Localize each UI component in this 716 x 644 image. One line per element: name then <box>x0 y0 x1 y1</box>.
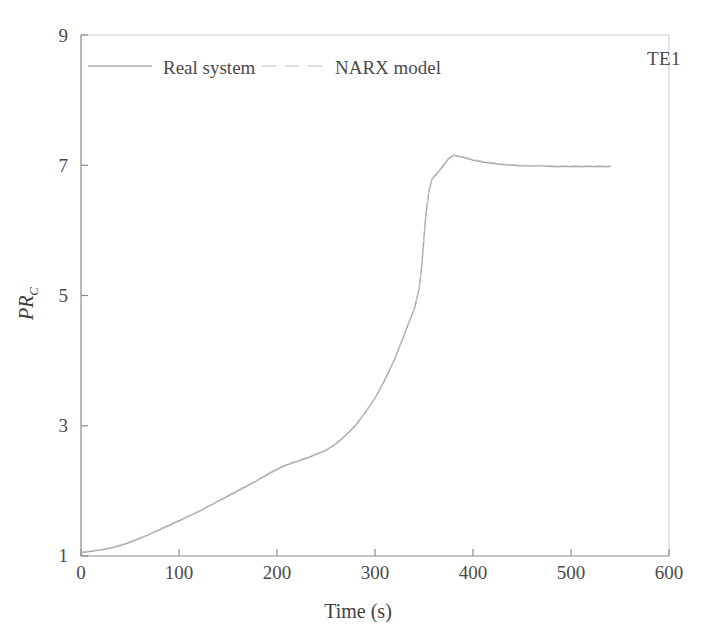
x-tick-label: 400 <box>453 562 493 584</box>
axis-ticks <box>81 35 669 556</box>
chart-figure: 1 3 5 7 9 0 100 200 300 400 500 600 Time… <box>0 0 716 644</box>
y-tick-label: 7 <box>40 155 68 177</box>
x-tick-label: 300 <box>355 562 395 584</box>
x-axis-label: Time (s) <box>0 600 716 623</box>
legend-label-narx-model: NARX model <box>335 57 441 79</box>
x-tick-label: 500 <box>551 562 591 584</box>
plot-canvas <box>0 0 716 644</box>
y-tick-label: 9 <box>40 25 68 47</box>
y-tick-label: 3 <box>40 415 68 437</box>
legend-label-real-system: Real system <box>163 57 255 79</box>
x-tick-label: 0 <box>61 562 101 584</box>
series-line-narx-model <box>81 155 610 552</box>
y-axis-label: PRC <box>15 264 42 344</box>
data-series-group <box>81 155 610 553</box>
y-axis-label-base: PR <box>15 296 37 320</box>
x-tick-label: 200 <box>257 562 297 584</box>
x-tick-label: 100 <box>159 562 199 584</box>
x-tick-label: 600 <box>649 562 689 584</box>
y-axis-label-subscript: C <box>26 287 41 296</box>
series-line-real-system <box>81 155 610 552</box>
axes-frame <box>81 35 669 556</box>
y-tick-label: 5 <box>40 285 68 307</box>
annotation-te1: TE1 <box>647 48 681 70</box>
